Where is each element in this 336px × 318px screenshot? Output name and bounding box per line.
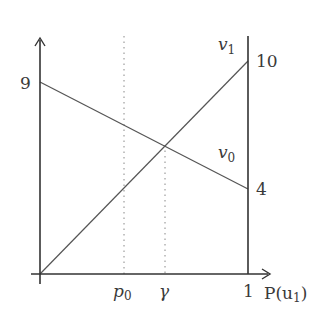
y-tick-4: 4 xyxy=(256,179,267,199)
v0-line xyxy=(40,82,248,189)
v1-label: v1 xyxy=(218,34,235,57)
y-tick-9: 9 xyxy=(20,73,31,93)
y-tick-10: 10 xyxy=(256,51,278,71)
v1-line xyxy=(40,61,248,274)
x-tick-1: 1 xyxy=(243,281,254,301)
x-tick-gamma: γ xyxy=(159,281,170,301)
v0-label: v0 xyxy=(218,142,235,165)
x-tick-p0: p0 xyxy=(113,281,132,303)
diagram-canvas: 9 10 4 v1 v0 p0 γ 1 P(u1) xyxy=(0,0,336,318)
x-axis-label: P(u1) xyxy=(264,283,307,305)
